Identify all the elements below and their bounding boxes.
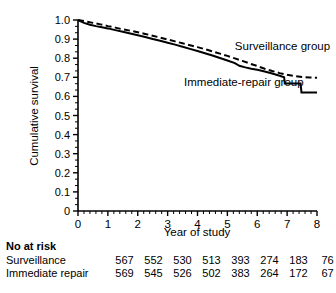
- x-axis-title: Year of study: [164, 226, 231, 238]
- y-tick-label: 0.7: [55, 71, 70, 83]
- risk-cell: 393: [226, 254, 255, 267]
- y-tick-label: 0.2: [55, 167, 70, 179]
- x-tick-label: 6: [254, 218, 260, 230]
- x-tick-label: 1: [105, 218, 111, 230]
- risk-cell: 274: [255, 254, 284, 267]
- risk-cell: 545: [139, 267, 168, 280]
- series-label-immediate-repair-group: Immediate-repair group: [184, 76, 304, 88]
- risk-cell: 172: [284, 267, 313, 280]
- x-tick-label: 8: [314, 218, 320, 230]
- risk-cell: 513: [197, 254, 226, 267]
- risk-cell: 530: [168, 254, 197, 267]
- y-tick-label: 0.9: [55, 33, 70, 45]
- y-tick-label: 1.0: [55, 14, 70, 26]
- risk-cell: 67: [313, 267, 336, 280]
- risk-table-title: No at risk: [0, 240, 336, 253]
- risk-row-values: 56954552650238326417267: [110, 267, 336, 280]
- y-tick-label: 0.6: [55, 90, 70, 102]
- kaplan-meier-plot: 00.10.20.30.40.50.60.70.80.91.0 01234567…: [0, 0, 336, 240]
- risk-row-values: 56755253051339327418376: [110, 254, 336, 267]
- y-tick-label: 0.1: [55, 186, 70, 198]
- y-axis-title: Cumulative survival: [28, 66, 40, 166]
- x-tick-label: 7: [284, 218, 290, 230]
- risk-row-label: Surveillance: [6, 254, 110, 267]
- risk-cell: 264: [255, 267, 284, 280]
- y-tick-label: 0.5: [55, 110, 70, 122]
- risk-cell: 567: [110, 254, 139, 267]
- y-axis: 00.10.20.30.40.50.60.70.80.91.0: [55, 14, 78, 217]
- y-tick-label: 0: [64, 205, 70, 217]
- risk-cell: 569: [110, 267, 139, 280]
- series-annotations: Surveillance groupImmediate-repair group: [184, 40, 330, 88]
- x-tick-label: 0: [75, 218, 81, 230]
- plot-area: 00.10.20.30.40.50.60.70.80.91.0 01234567…: [0, 0, 336, 240]
- risk-cell: 76: [313, 254, 336, 267]
- y-tick-label: 0.8: [55, 52, 70, 64]
- risk-cell: 383: [226, 267, 255, 280]
- y-tick-label: 0.4: [55, 129, 70, 141]
- risk-cell: 552: [139, 254, 168, 267]
- risk-table-row: Immediate repair56954552650238326417267: [0, 267, 336, 280]
- risk-cell: 183: [284, 254, 313, 267]
- x-tick-label: 2: [135, 218, 141, 230]
- risk-table-row: Surveillance56755253051339327418376: [0, 254, 336, 267]
- risk-row-label: Immediate repair: [6, 267, 110, 280]
- risk-cell: 502: [197, 267, 226, 280]
- survival-chart-figure: 00.10.20.30.40.50.60.70.80.91.0 01234567…: [0, 0, 336, 293]
- risk-cell: 526: [168, 267, 197, 280]
- series-label-surveillance-group: Surveillance group: [235, 40, 330, 52]
- risk-table-rows: Surveillance56755253051339327418376Immed…: [0, 254, 336, 280]
- risk-table: No at risk Surveillance56755253051339327…: [0, 240, 336, 280]
- y-tick-label: 0.3: [55, 148, 70, 160]
